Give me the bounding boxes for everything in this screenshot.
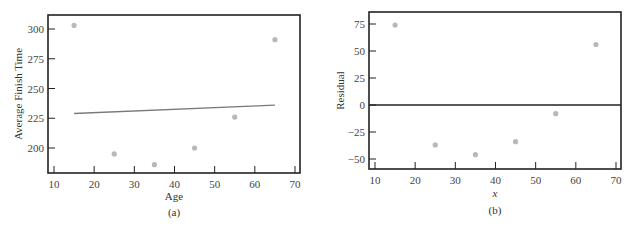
x-tick-label: 20	[89, 178, 101, 190]
x-tick-label: 20	[410, 174, 422, 186]
data-point	[553, 111, 558, 116]
x-tick-label: 60	[570, 174, 582, 186]
x-tick-label: 30	[129, 178, 141, 190]
panel-caption: (b)	[489, 204, 502, 217]
chart-panel-b: 10203040506070−50−250255075xResidual(b)	[334, 12, 622, 217]
data-point	[71, 23, 76, 28]
x-tick-label: 40	[169, 178, 181, 190]
y-tick-label: −50	[348, 153, 366, 165]
plot-frame	[369, 12, 621, 169]
plot-frame	[48, 15, 300, 173]
data-point	[473, 152, 478, 157]
y-tick-label: 50	[354, 45, 366, 57]
data-point	[192, 145, 197, 150]
data-point	[232, 114, 237, 119]
x-axis-label: Age	[165, 190, 183, 202]
x-tick-label: 10	[49, 178, 61, 190]
x-tick-label: 60	[249, 178, 261, 190]
x-tick-label: 50	[530, 174, 542, 186]
chart-panel-a: 10203040506070200225250275300AgeAverage …	[12, 15, 301, 219]
data-point	[433, 142, 438, 147]
data-point	[392, 22, 397, 27]
y-tick-label: 275	[28, 53, 45, 65]
x-tick-label: 50	[209, 178, 221, 190]
data-point	[513, 139, 518, 144]
panel-caption: (a)	[168, 206, 181, 219]
chart-canvas: 10203040506070200225250275300AgeAverage …	[0, 0, 633, 232]
x-tick-label: 30	[450, 174, 462, 186]
x-tick-label: 10	[370, 174, 382, 186]
x-tick-label: 70	[611, 174, 623, 186]
y-tick-label: 75	[354, 18, 366, 30]
y-axis-label: Residual	[334, 71, 346, 110]
data-point	[152, 162, 157, 167]
y-tick-label: 0	[360, 99, 366, 111]
y-axis-label: Average Finish Time	[12, 48, 24, 140]
data-point	[593, 42, 598, 47]
y-tick-label: 300	[28, 23, 45, 35]
x-axis-label: x	[492, 187, 498, 199]
y-tick-label: 225	[28, 112, 45, 124]
y-tick-label: 25	[354, 72, 366, 84]
regression-line	[74, 105, 275, 113]
data-point	[112, 151, 117, 156]
x-tick-label: 70	[290, 178, 302, 190]
y-tick-label: 200	[28, 142, 45, 154]
x-tick-label: 40	[490, 174, 502, 186]
y-tick-label: 250	[28, 83, 45, 95]
data-point	[272, 37, 277, 42]
y-tick-label: −25	[348, 126, 366, 138]
